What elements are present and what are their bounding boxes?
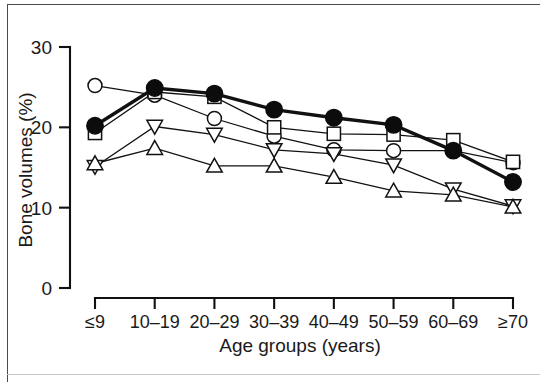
marker-up-triangle [147, 141, 163, 155]
x-tick-label: 60–69 [428, 312, 478, 332]
x-axis-title: Age groups (years) [219, 335, 381, 356]
marker-filled-circle [445, 142, 461, 158]
y-tick-label: 30 [31, 37, 52, 58]
marker-filled-circle [87, 118, 103, 134]
x-tick-label: 50–59 [369, 312, 419, 332]
x-tick-label: 30–39 [249, 312, 299, 332]
y-axis-title: Bone volumes (%) [15, 92, 36, 247]
x-tick-label: ≤9 [85, 312, 105, 332]
x-tick-label: 20–29 [189, 312, 239, 332]
marker-open-circle [387, 144, 401, 158]
marker-up-triangle [266, 158, 282, 172]
marker-filled-circle [206, 85, 222, 101]
line-chart: 0102030≤910–1920–2930–3940–4950–5960–69≥… [0, 0, 540, 382]
marker-down-triangle [207, 128, 223, 142]
series-layer [87, 79, 521, 214]
marker-filled-circle [505, 174, 521, 190]
marker-open-square [506, 155, 519, 168]
marker-filled-circle [266, 101, 282, 117]
marker-open-circle [207, 111, 221, 125]
x-tick-label: 40–49 [309, 312, 359, 332]
marker-open-square [268, 121, 281, 134]
marker-down-triangle [386, 159, 402, 173]
figure-canvas: 0102030≤910–1920–2930–3940–4950–5960–69≥… [0, 0, 540, 382]
marker-filled-circle [385, 117, 401, 133]
marker-up-triangle [207, 158, 223, 172]
y-tick-label: 0 [41, 278, 52, 299]
marker-open-square [327, 127, 340, 140]
marker-filled-circle [326, 109, 342, 125]
x-tick-label: 10–19 [130, 312, 180, 332]
x-tick-label: ≥70 [498, 312, 528, 332]
marker-open-circle [88, 79, 102, 93]
marker-filled-circle [147, 80, 163, 96]
